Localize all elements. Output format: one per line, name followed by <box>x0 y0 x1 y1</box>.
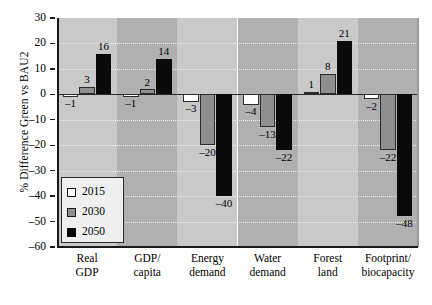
y-axis-tick <box>50 221 55 222</box>
bar-2030 <box>260 94 276 127</box>
y-axis-tick <box>50 246 55 247</box>
y-axis-tick-label: 30 <box>6 12 46 24</box>
y-axis-tick <box>50 170 55 171</box>
y-axis-tick-label: 10 <box>6 63 46 75</box>
bar-2030 <box>320 74 336 94</box>
y-axis-tick <box>50 145 55 146</box>
bar-value-label: –48 <box>391 218 419 229</box>
bar-2050 <box>216 94 232 196</box>
y-axis-tick <box>50 119 55 120</box>
y-axis-tick-label: –60 <box>6 241 46 253</box>
x-axis-tick-label-line: biocapacity <box>346 266 430 280</box>
y-axis-tick-label: –50 <box>6 216 46 228</box>
bar-2030 <box>79 87 95 95</box>
gridline <box>57 171 418 172</box>
bar-2015 <box>304 92 320 95</box>
bar-value-label: –40 <box>210 198 238 209</box>
legend-item-2030: 2030 <box>67 202 123 222</box>
plot-right-edge <box>417 18 418 247</box>
y-axis-tick-label: 20 <box>6 37 46 49</box>
bar-2050 <box>397 94 413 216</box>
y-axis-tick <box>50 94 55 95</box>
bar-value-label: 16 <box>90 41 118 52</box>
y-axis-tick <box>50 43 55 44</box>
bar-value-label: –1 <box>57 98 85 109</box>
bar-value-label: 21 <box>331 28 359 39</box>
y-axis-tick-label: –30 <box>6 165 46 177</box>
bar-2050 <box>337 41 353 94</box>
legend-swatch-2015-icon <box>67 188 76 197</box>
x-axis-tick-label: Footprint/biocapacity <box>346 252 430 279</box>
bar-2050 <box>96 54 112 95</box>
bar-value-label: –22 <box>270 152 298 163</box>
legend-swatch-2050-icon <box>67 228 76 237</box>
legend-swatch-2030-icon <box>67 208 76 217</box>
x-axis-line <box>57 246 418 248</box>
x-axis-tick-label-line: Footprint/ <box>346 252 430 266</box>
bar-2015 <box>183 94 199 102</box>
y-axis-tick <box>50 195 55 196</box>
legend-item-2015: 2015 <box>67 182 123 202</box>
y-axis-tick-label: –10 <box>6 114 46 126</box>
bar-2050 <box>276 94 292 150</box>
y-axis-tick <box>50 17 55 18</box>
bar-chart: % Difference Green vs BAU2 –1316–1214–3–… <box>0 0 432 305</box>
y-axis-line <box>57 18 59 247</box>
bar-value-label: –1 <box>117 98 145 109</box>
legend-item-2050: 2050 <box>67 222 123 242</box>
legend-label-2015: 2015 <box>82 186 105 198</box>
gridline <box>57 120 418 121</box>
y-axis-tick-label: –20 <box>6 139 46 151</box>
y-axis-tick-label: –40 <box>6 190 46 202</box>
y-axis-tick-label: 0 <box>6 88 46 100</box>
bar-value-label: 14 <box>150 46 178 57</box>
legend-label-2030: 2030 <box>82 206 105 218</box>
legend: 2015 2030 2050 <box>61 177 124 243</box>
legend-label-2050: 2050 <box>82 226 105 238</box>
bar-2030 <box>200 94 216 145</box>
y-axis-tick <box>50 68 55 69</box>
bar-2015 <box>243 94 259 104</box>
bar-2030 <box>380 94 396 150</box>
bar-2030 <box>140 89 156 94</box>
bar-2050 <box>156 59 172 95</box>
bar-2015 <box>364 94 380 99</box>
gridline <box>57 145 418 146</box>
